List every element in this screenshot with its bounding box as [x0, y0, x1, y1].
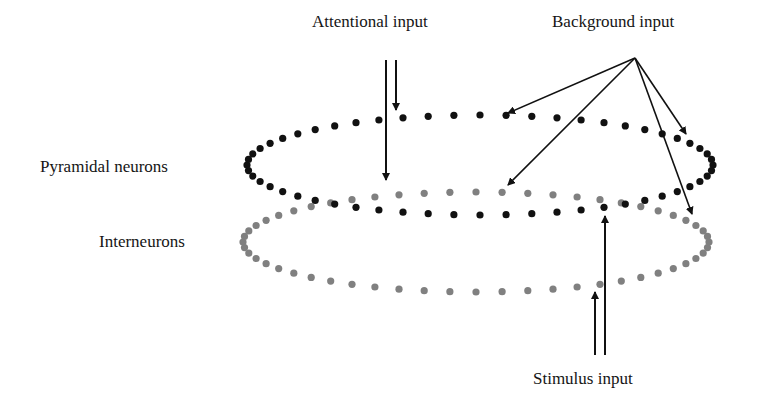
neuron-dot — [371, 283, 378, 290]
neuron-dot — [574, 193, 581, 200]
neuron-dot — [686, 140, 693, 147]
neuron-dot — [399, 114, 406, 121]
neuron-dot — [279, 135, 286, 142]
neuron-dot — [352, 119, 359, 126]
neuron-dot — [375, 206, 382, 213]
neuron-dot — [348, 281, 355, 288]
neuron-dot — [450, 211, 457, 218]
neuron-dot — [682, 217, 689, 224]
interneurons-ring — [239, 188, 712, 295]
neuron-dot — [450, 112, 457, 119]
neuron-dot — [472, 288, 479, 295]
neuron-dot — [294, 130, 301, 137]
neuron-dot — [375, 116, 382, 123]
neuron-dot — [446, 189, 453, 196]
neuron-dot — [312, 197, 319, 204]
neuron-dot — [553, 114, 560, 121]
neuron-dot — [528, 210, 535, 217]
neuron-dot — [704, 233, 711, 240]
neuron-dot — [578, 206, 585, 213]
neuron-dot — [596, 281, 603, 288]
neuron-dot — [637, 274, 644, 281]
neuron-dot — [499, 189, 506, 196]
neuron-dot — [421, 287, 428, 294]
neuron-dot — [275, 212, 282, 219]
neuron-dot — [641, 126, 648, 133]
neuron-dot — [600, 119, 607, 126]
neuron-dot — [692, 222, 699, 229]
neuron-dot — [641, 197, 648, 204]
neuron-dot — [263, 217, 270, 224]
neuron-dot — [578, 116, 585, 123]
neuron-dot — [704, 173, 711, 180]
neuron-dot — [257, 178, 264, 185]
neuron-dot — [682, 260, 689, 267]
neuron-dot — [267, 140, 274, 147]
neuron-dot — [618, 278, 625, 285]
neuron-dot — [308, 203, 315, 210]
neuron-dot — [312, 126, 319, 133]
neuron-dot — [257, 145, 264, 152]
arrow-icon — [508, 58, 635, 185]
neuron-dot — [395, 286, 402, 293]
neuron-dot — [263, 260, 270, 267]
neuron-dot — [696, 178, 703, 185]
neuron-dot — [655, 270, 662, 277]
neuron-dot — [528, 113, 535, 120]
neuron-dot — [275, 265, 282, 272]
arrow-icon — [635, 58, 692, 214]
neuron-dot — [549, 286, 556, 293]
neuron-dot — [253, 222, 260, 229]
neuron-dot — [294, 193, 301, 200]
neuron-dot — [267, 183, 274, 190]
neuron-dot — [503, 211, 510, 218]
neuron-dot — [331, 122, 338, 129]
neuron-dot — [395, 191, 402, 198]
neuron-dot — [622, 201, 629, 208]
pyramidal-neurons-ring — [243, 111, 716, 218]
neuron-dot — [524, 190, 531, 197]
neuron-dot — [472, 188, 479, 195]
neuron-dot — [249, 150, 256, 157]
neuron-dot — [696, 145, 703, 152]
neuron-dot — [574, 283, 581, 290]
neuron-dot — [290, 270, 297, 277]
neuron-dot — [553, 209, 560, 216]
neuron-dot — [425, 210, 432, 217]
neuron-dot — [499, 288, 506, 295]
neuron-dot — [348, 196, 355, 203]
neuron-dot — [600, 204, 607, 211]
neuron-dot — [700, 250, 707, 257]
neuron-dot — [622, 122, 629, 129]
neuron-dot — [253, 255, 260, 262]
neuron-dot — [659, 193, 666, 200]
neuron-dot — [331, 201, 338, 208]
neuron-dot — [674, 135, 681, 142]
neuron-dot — [655, 207, 662, 214]
neuron-dot — [692, 255, 699, 262]
neuron-dot — [421, 190, 428, 197]
neuron-dot — [670, 265, 677, 272]
neuron-dot — [446, 288, 453, 295]
network-diagram — [0, 0, 771, 410]
neuron-dot — [371, 193, 378, 200]
neuron-dot — [524, 287, 531, 294]
arrow-icon — [508, 58, 635, 113]
neuron-dot — [637, 203, 644, 210]
neuron-dot — [308, 274, 315, 281]
neuron-dot — [686, 183, 693, 190]
neuron-dot — [596, 196, 603, 203]
neuron-dot — [425, 113, 432, 120]
neuron-dot — [549, 191, 556, 198]
neuron-dot — [245, 227, 252, 234]
neuron-dot — [476, 111, 483, 118]
neuron-dot — [279, 188, 286, 195]
neuron-dot — [674, 188, 681, 195]
arrow-icon — [635, 58, 686, 134]
neuron-dot — [290, 207, 297, 214]
neuron-dot — [670, 212, 677, 219]
attentional-input-arrows — [386, 60, 396, 180]
neuron-dot — [399, 209, 406, 216]
neuron-dot — [352, 204, 359, 211]
neuron-dot — [476, 211, 483, 218]
